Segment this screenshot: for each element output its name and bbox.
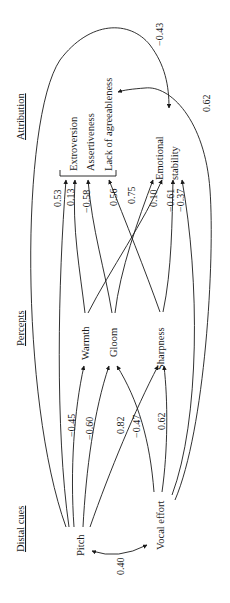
edge-pitch-warmth xyxy=(72,366,84,527)
edge-pitch-extroversion xyxy=(59,180,69,527)
coef-gloom-emotional-stability: 0.75 xyxy=(126,187,137,205)
coef-warmth-emotional-stability: 0.10 xyxy=(148,190,159,208)
edge-pitch-vocal-effort xyxy=(92,545,147,554)
node-emotional-stability-line1: Emotional xyxy=(154,136,165,180)
edge-pitch-gloom xyxy=(83,366,109,527)
coef-pitch-gloom: −0.60 xyxy=(84,417,95,440)
coef-vocal-effort-lack-of-agreeableness-direct: 0.62 xyxy=(201,95,212,113)
lens-model-diagram: Attribution Percepts Distal cues Extrove… xyxy=(0,0,230,603)
column-header-attribution: Attribution xyxy=(15,93,26,140)
coef-pitch-vocal-effort: 0.40 xyxy=(115,558,126,576)
coef-pitch-emotional-stability-direct: −0.43 xyxy=(154,23,165,46)
node-pitch: Pitch xyxy=(75,534,86,556)
coef-sharpness-lack-of-agreeableness: 0.56 xyxy=(108,189,119,207)
column-header-percepts: Percepts xyxy=(15,310,26,346)
node-assertiveness: Assertiveness xyxy=(85,113,96,171)
coef-pitch-sharpness: −0.47 xyxy=(131,415,142,438)
node-extroversion: Extroversion xyxy=(68,116,79,171)
coef-warmth-assertiveness: 0.13 xyxy=(65,189,76,207)
coef-pitch-warmth: −0.45 xyxy=(66,414,77,437)
edge-pitch-emotional-stability-direct xyxy=(31,28,169,527)
coef-vocal-effort-sharpness: 0.62 xyxy=(156,413,167,431)
coef-gloom-assertiveness: −0.58 xyxy=(81,190,92,213)
node-gloom: Gloom xyxy=(108,328,119,357)
node-emotional-stability-line2: stability xyxy=(169,145,180,180)
coef-vocal-effort-emotional-stability: −0.37 xyxy=(175,189,186,212)
column-header-distal-cues: Distal cues xyxy=(15,506,26,552)
node-vocal-effort: Vocal effort xyxy=(155,500,166,550)
coef-pitch-extroversion: 0.53 xyxy=(52,190,63,208)
node-sharpness: Sharpness xyxy=(155,327,166,370)
node-lack-of-agreeableness: Lack of agreeableness xyxy=(103,78,114,171)
node-warmth: Warmth xyxy=(80,326,91,360)
coef-vocal-effort-gloom: 0.82 xyxy=(115,417,126,435)
